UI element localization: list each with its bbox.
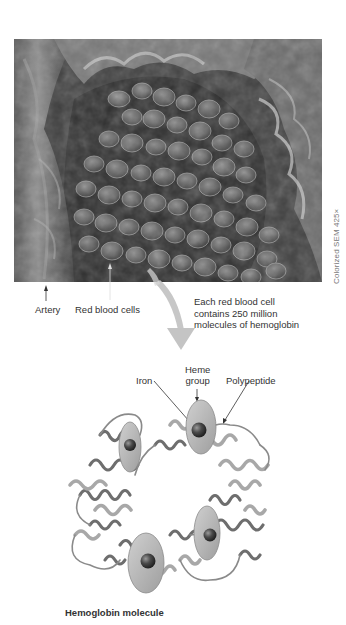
- artery-pointer-arrow: [44, 285, 48, 301]
- heme-group-lower-left: [128, 533, 164, 593]
- heme-group-upper-left: [119, 422, 141, 472]
- heme-label-line-1: Heme: [185, 364, 210, 375]
- red-blood-cells-pointer-arrow: [108, 263, 112, 300]
- polypeptide-ribbons: [70, 414, 269, 580]
- heme-group-top: [186, 400, 216, 454]
- iron-atom: [141, 554, 156, 569]
- note-line-1: Each red blood cell: [194, 296, 299, 308]
- zoom-transition-arrow: [147, 268, 195, 350]
- note-line-2: contains 250 million: [194, 308, 299, 320]
- hemoglobin-count-note: Each red blood cell contains 250 million…: [194, 296, 299, 331]
- iron-atom: [124, 439, 136, 451]
- hemoglobin-molecule-illustration: [60, 385, 290, 605]
- heme-group-label: Heme group: [185, 364, 210, 386]
- red-blood-cells-label: Red blood cells: [75, 304, 140, 315]
- note-line-3: molecules of hemoglobin: [194, 319, 299, 331]
- artery-label: Artery: [35, 304, 60, 315]
- iron-atom: [204, 529, 217, 542]
- hemoglobin-molecule-title: Hemoglobin molecule: [65, 607, 164, 618]
- heme-group-lower-right: [194, 506, 220, 560]
- iron-atom: [192, 423, 207, 438]
